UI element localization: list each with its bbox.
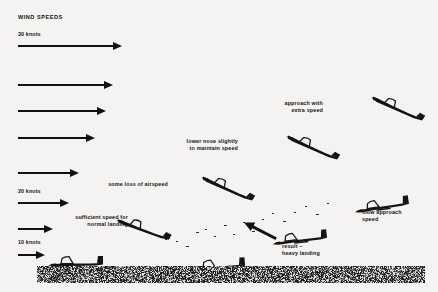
arrow-head-icon: [70, 169, 79, 177]
annotation-approach-with-extra-speed: approach withextra speed: [0, 100, 323, 114]
arrow-head-icon: [60, 199, 69, 207]
diagram-title: WIND SPEEDS: [18, 14, 63, 20]
arrow-head-icon: [104, 81, 113, 89]
descent-trail-mark: [205, 229, 207, 230]
wind-speed-label-20-knots: 20 knots: [18, 188, 41, 194]
annotation-line-1: approach with: [0, 100, 323, 107]
arrow-head-icon: [36, 251, 45, 259]
descent-trail-mark: [316, 214, 319, 215]
glider-some-loss-airspeed: [195, 163, 257, 215]
descent-trail-mark: [305, 206, 307, 207]
descent-trail-mark: [214, 236, 216, 237]
arrow-shaft: [18, 228, 44, 230]
glider-approach-extra-speed: [365, 83, 427, 135]
annotation-lower-nose-slightly: lower nose slightlyto maintain speed: [0, 138, 238, 152]
annotation-line-2: heavy landing: [282, 250, 320, 257]
annotation-line-1: lower nose slightly: [0, 138, 238, 145]
arrow-shaft: [18, 84, 104, 86]
annotation-line-1: some loss of airspeed: [0, 181, 168, 188]
ground-surface: [37, 266, 425, 283]
descent-trail-mark: [196, 232, 199, 233]
annotation-line-2: extra speed: [0, 107, 323, 114]
glider-sufficient-speed: [111, 205, 174, 254]
descent-trail-mark: [294, 212, 296, 213]
result-pointer-arrow: [241, 217, 278, 244]
annotation-line-2: normal landing: [0, 221, 128, 228]
arrow-shaft: [18, 202, 60, 204]
descent-trail-mark: [224, 225, 227, 226]
arrow-head-icon: [113, 42, 122, 50]
arrow-shaft: [18, 45, 113, 47]
descent-trail-mark: [176, 241, 178, 242]
annotation-line-2: to maintain speed: [0, 145, 238, 152]
descent-trail-mark: [327, 203, 329, 204]
wind-speed-label-30-knots: 30 knots: [18, 31, 41, 37]
annotation-line-1: sufficient speed for: [0, 214, 128, 221]
descent-trail-mark: [283, 221, 286, 222]
descent-trail-mark: [272, 213, 274, 214]
wind-speed-label-10-knots: 10 knots: [18, 239, 41, 245]
descent-trail-mark: [262, 219, 264, 220]
glider-lower-nose: [280, 122, 342, 174]
arrow-shaft: [18, 172, 70, 174]
descent-trail-mark: [165, 239, 167, 240]
ground-texture: [37, 266, 425, 283]
arrow-shaft: [18, 254, 36, 256]
annotation-some-loss-of-airspeed: some loss of airspeed: [0, 181, 168, 188]
descent-trail-mark: [186, 246, 189, 247]
annotation-sufficient-speed-for-normal-landing: sufficient speed fornormal landing: [0, 214, 128, 228]
glider-slow-approach: [351, 192, 413, 220]
descent-trail-mark: [233, 234, 235, 235]
wind-speeds-landing-diagram: WIND SPEEDS 30 knots20 knots10 knots app…: [0, 0, 438, 292]
glider-slow-descending: [269, 226, 331, 252]
